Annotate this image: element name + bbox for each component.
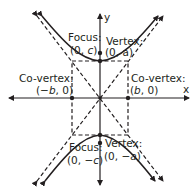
focus-bottom-coord: (0, −c) [67, 154, 103, 166]
vertex-top-point [98, 59, 102, 63]
x-axis-label: x [183, 83, 189, 95]
covertex-left-coord: (−b, 0) [36, 84, 73, 96]
y-axis-label: y [104, 11, 110, 23]
focus-top-point [98, 51, 102, 55]
vertex-bottom-coord: (0, −a) [104, 150, 141, 162]
covertex-right-title: Co-vertex: [131, 72, 186, 84]
origin-point [98, 96, 102, 100]
focus-top-title: Focus: [68, 31, 102, 43]
hyperbola-diagram: x y Focus: (0, c) Vertex: (0, a) Co-vert… [0, 0, 191, 188]
focus-top-coord: (0, c) [70, 44, 97, 56]
vertex-bottom-title: Vertex: [105, 137, 142, 149]
covertex-left-point [70, 96, 74, 100]
vertex-top-coord: (0, a) [105, 46, 133, 58]
focus-bottom-title: Focus: [69, 141, 103, 153]
covertex-right-point [126, 96, 130, 100]
covertex-left-title: Co-vertex: [19, 72, 74, 84]
vertex-bottom-point [98, 133, 102, 137]
covertex-right-coord: (b, 0) [130, 84, 158, 96]
